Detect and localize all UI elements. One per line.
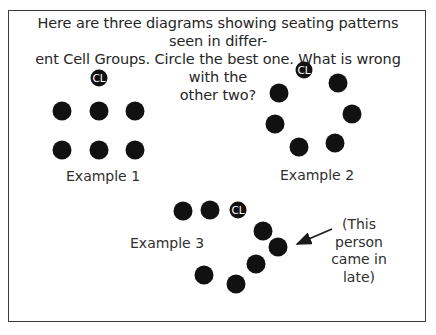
- example-1-seating: CL: [53, 70, 145, 160]
- seat-dot-icon: [53, 102, 72, 121]
- seat-dot-icon: [126, 141, 145, 160]
- seat-dot-icon: [90, 141, 109, 160]
- example-2-seating: CL: [266, 62, 362, 157]
- seat-dot-icon: [326, 134, 345, 153]
- example-2-label: Example 2: [280, 167, 354, 183]
- seat-dot-icon: [90, 102, 109, 121]
- seat-dot-icon: [343, 105, 362, 124]
- seat-dot-icon: [227, 275, 246, 294]
- seat-dot-icon: [269, 238, 288, 257]
- note-line-1: (This: [330, 216, 388, 234]
- late-arrow-icon: [297, 229, 332, 244]
- cell-leader-label: CL: [231, 204, 244, 216]
- note-line-2: person: [330, 234, 388, 252]
- seat-dot-icon: [329, 74, 348, 93]
- seat-dot-icon: [53, 141, 72, 160]
- seat-dot-icon: [174, 202, 193, 221]
- seat-dot-icon: [290, 138, 309, 157]
- seat-dot-icon: [195, 266, 214, 285]
- note-line-4: late): [330, 269, 388, 287]
- seat-dot-icon: [270, 84, 289, 103]
- cell-leader-label: CL: [297, 64, 310, 76]
- seat-dot-icon: [266, 115, 285, 134]
- cell-leader-label: CL: [92, 72, 105, 84]
- late-person-note: (This person came in late): [330, 216, 388, 286]
- seat-dot-icon: [247, 255, 266, 274]
- seat-dot-icon: [126, 102, 145, 121]
- seat-dot-icon: [254, 222, 273, 241]
- seat-dot-icon: [201, 201, 220, 220]
- example-1-label: Example 1: [66, 168, 140, 184]
- example-3-label: Example 3: [130, 235, 204, 251]
- note-line-3: came in: [330, 251, 388, 269]
